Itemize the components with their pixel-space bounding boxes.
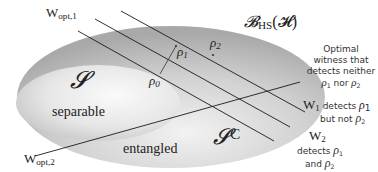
wopt2-label: Wopt,2 xyxy=(24,152,55,167)
separable-label: separable xyxy=(52,105,105,119)
wopt1-label: Wopt,1 xyxy=(46,6,77,21)
separable-symbol: 𝓢 xyxy=(70,68,89,92)
w1-annotation-line2: but not ρ2 xyxy=(320,112,365,125)
rho2-label: ρ2 xyxy=(210,36,221,51)
rho2-point xyxy=(212,54,214,56)
optimal-witness-annotation: Optimal witness that detects neither ρ1 … xyxy=(306,44,376,91)
w2-annotation-line1: detects ρ1 xyxy=(297,144,343,157)
space-label: 𝓑HS(𝓗) xyxy=(244,14,297,31)
entangled-symbol: 𝓢C xyxy=(213,126,240,148)
entangled-label: entangled xyxy=(123,142,177,156)
rho1-label: ρ1 xyxy=(177,45,188,60)
rho0-label: ρ0 xyxy=(149,74,160,89)
w2-annotation-line2: and ρ2 xyxy=(305,157,335,170)
w2-label: W2 xyxy=(309,127,326,144)
